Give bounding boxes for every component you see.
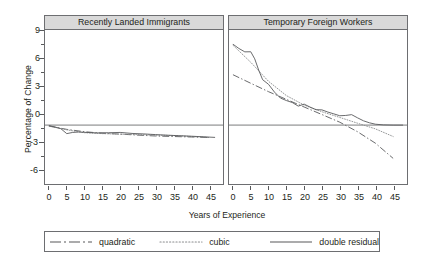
chart-legend: quadratic cubic double residual bbox=[44, 231, 380, 252]
plot-svg-right bbox=[229, 30, 407, 184]
x-tick-right bbox=[340, 186, 341, 190]
x-tick-label-right-0: 0 bbox=[224, 193, 242, 202]
x-tick-label-right-5: 5 bbox=[242, 193, 260, 202]
panel-title-temporary-foreign-workers: Temporary Foreign Workers bbox=[228, 15, 408, 30]
x-tick-left bbox=[174, 186, 175, 190]
x-tick-left bbox=[66, 186, 67, 190]
legend-item-quadratic: quadratic bbox=[45, 237, 155, 247]
y-tick-label-6: 6 bbox=[24, 54, 40, 63]
x-tick-right bbox=[304, 186, 305, 190]
plot-svg-left bbox=[45, 30, 223, 184]
panel-plot-area-left bbox=[44, 30, 224, 185]
x-tick-left bbox=[84, 186, 85, 190]
y-tick-label-9: 9 bbox=[24, 26, 40, 35]
series-line-quadratic-right bbox=[233, 75, 393, 159]
legend-item-double-residual: double residual bbox=[265, 237, 379, 247]
x-tick-label-left-45: 45 bbox=[202, 193, 220, 202]
x-tick-label-left-0: 0 bbox=[40, 193, 58, 202]
x-tick-right bbox=[250, 186, 251, 190]
x-tick-right bbox=[358, 186, 359, 190]
x-tick-left bbox=[156, 186, 157, 190]
x-tick-label-left-5: 5 bbox=[58, 193, 76, 202]
x-tick-right bbox=[322, 186, 323, 190]
x-tick-label-right-30: 30 bbox=[332, 193, 350, 202]
x-tick-label-right-10: 10 bbox=[260, 193, 278, 202]
legend-key-quadratic-dash-dot-icon bbox=[49, 237, 93, 247]
y-tick-label-3: 3 bbox=[24, 82, 40, 91]
x-tick-label-left-15: 15 bbox=[94, 193, 112, 202]
x-tick-right bbox=[232, 186, 233, 190]
panel-title-recently-landed-immigrants: Recently Landed Immigrants bbox=[44, 15, 224, 30]
x-tick-label-right-45: 45 bbox=[386, 193, 404, 202]
x-tick-left bbox=[138, 186, 139, 190]
x-tick-label-right-40: 40 bbox=[368, 193, 386, 202]
legend-label-quadratic: quadratic bbox=[99, 237, 135, 247]
x-tick-right bbox=[268, 186, 269, 190]
legend-item-cubic: cubic bbox=[155, 237, 265, 247]
y-tick-label-neg6: -6 bbox=[22, 166, 38, 175]
legend-label-cubic: cubic bbox=[209, 237, 230, 247]
x-tick-left bbox=[210, 186, 211, 190]
x-tick-label-left-20: 20 bbox=[112, 193, 130, 202]
x-tick-left bbox=[192, 186, 193, 190]
x-tick-label-left-10: 10 bbox=[76, 193, 94, 202]
x-axis-title: Years of Experience bbox=[152, 210, 302, 220]
legend-key-cubic-dotted-icon bbox=[159, 237, 203, 247]
x-tick-left bbox=[102, 186, 103, 190]
x-tick-label-left-25: 25 bbox=[130, 193, 148, 202]
series-line-double-residual-left bbox=[49, 126, 215, 138]
y-tick-label-0: 0 bbox=[24, 110, 40, 119]
x-tick-label-right-15: 15 bbox=[278, 193, 296, 202]
panel-plot-area-right bbox=[228, 30, 408, 185]
x-tick-right bbox=[394, 186, 395, 190]
chart-figure: Percentage of Change 9 6 3 0 -3 -6 Recen… bbox=[0, 0, 424, 260]
panel-temporary-foreign-workers: Temporary Foreign Workers bbox=[228, 15, 408, 185]
panel-recently-landed-immigrants: Recently Landed Immigrants bbox=[44, 15, 224, 185]
x-tick-right bbox=[376, 186, 377, 190]
x-tick-label-left-40: 40 bbox=[184, 193, 202, 202]
x-tick-left bbox=[120, 186, 121, 190]
y-tick-label-neg3: -3 bbox=[22, 138, 38, 147]
x-tick-label-right-35: 35 bbox=[350, 193, 368, 202]
x-tick-label-right-20: 20 bbox=[296, 193, 314, 202]
legend-key-double-residual-solid-icon bbox=[269, 237, 313, 247]
legend-label-double-residual: double residual bbox=[319, 237, 379, 247]
x-tick-label-right-25: 25 bbox=[314, 193, 332, 202]
x-tick-right bbox=[286, 186, 287, 190]
x-tick-label-left-35: 35 bbox=[166, 193, 184, 202]
x-tick-left bbox=[48, 186, 49, 190]
x-tick-label-left-30: 30 bbox=[148, 193, 166, 202]
